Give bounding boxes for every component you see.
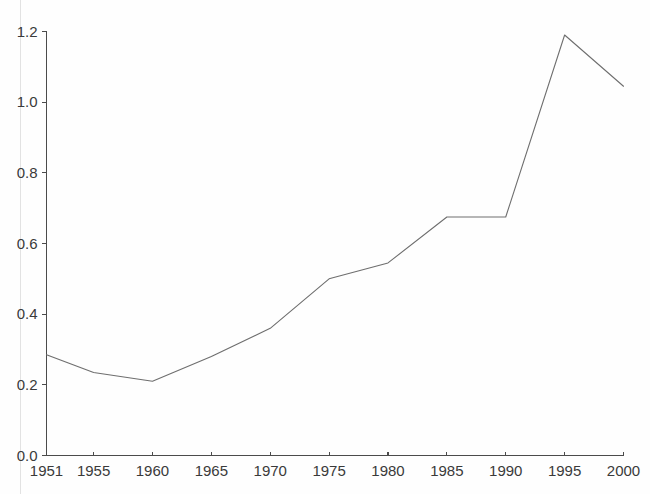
x-tick-label: 1955 [77,462,110,479]
x-tick-label: 1990 [489,462,522,479]
y-tick-label: 0.8 [17,164,38,181]
x-tick-label: 1980 [371,462,404,479]
y-tick-label: 0.4 [17,305,38,322]
chart-screenshot: 0.00.20.40.60.81.01.2 195119551960196519… [0,0,650,494]
y-tick-label: 1.2 [17,23,38,40]
x-tick-label: 1951 [30,462,63,479]
data-series-line [47,35,624,381]
y-tick-label: 0.2 [17,376,38,393]
axis-lines [47,32,624,456]
x-tick-label: 1960 [136,462,169,479]
y-axis-ticks: 0.00.20.40.60.81.01.2 [17,23,47,464]
line-chart: 0.00.20.40.60.81.01.2 195119551960196519… [0,0,650,494]
x-tick-label: 1995 [548,462,581,479]
x-tick-label: 2000 [607,462,640,479]
x-tick-label: 1965 [195,462,228,479]
x-tick-label: 1985 [430,462,463,479]
y-tick-label: 0.6 [17,235,38,252]
x-tick-label: 1970 [254,462,287,479]
x-tick-label: 1975 [312,462,345,479]
y-tick-label: 1.0 [17,93,38,110]
